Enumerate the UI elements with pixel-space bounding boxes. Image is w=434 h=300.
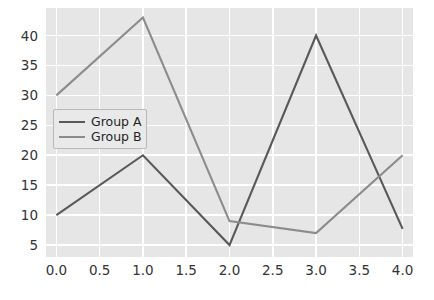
x-tick-label: 0.0 (46, 262, 67, 278)
legend-label-group-b: Group B (91, 129, 142, 144)
y-tick-label: 10 (0, 207, 38, 223)
x-tick-label: 2.5 (262, 262, 283, 278)
chart-legend[interactable]: Group A Group B (53, 109, 147, 149)
y-tick-label: 25 (0, 117, 38, 133)
x-tick-label: 1.5 (175, 262, 196, 278)
x-tick-label: 3.0 (305, 262, 326, 278)
legend-swatch-group-b (59, 136, 85, 138)
y-tick-label: 30 (0, 87, 38, 103)
legend-item-group-a[interactable]: Group A (59, 114, 141, 129)
x-tick-label: 2.0 (219, 262, 240, 278)
y-tick-label: 15 (0, 177, 38, 193)
x-tick-label: 1.0 (132, 262, 153, 278)
x-tick-label: 3.5 (349, 262, 370, 278)
x-tick-label: 4.0 (392, 262, 413, 278)
chart-figure: 510152025303540 0.00.51.01.52.02.53.03.5… (0, 0, 434, 300)
y-tick-label: 35 (0, 57, 38, 73)
x-tick-label: 0.5 (89, 262, 110, 278)
legend-label-group-a: Group A (91, 114, 142, 129)
y-tick-label: 40 (0, 28, 38, 44)
y-tick-label: 5 (0, 237, 38, 253)
legend-swatch-group-a (59, 121, 85, 123)
y-tick-label: 20 (0, 147, 38, 163)
legend-item-group-b[interactable]: Group B (59, 129, 141, 144)
